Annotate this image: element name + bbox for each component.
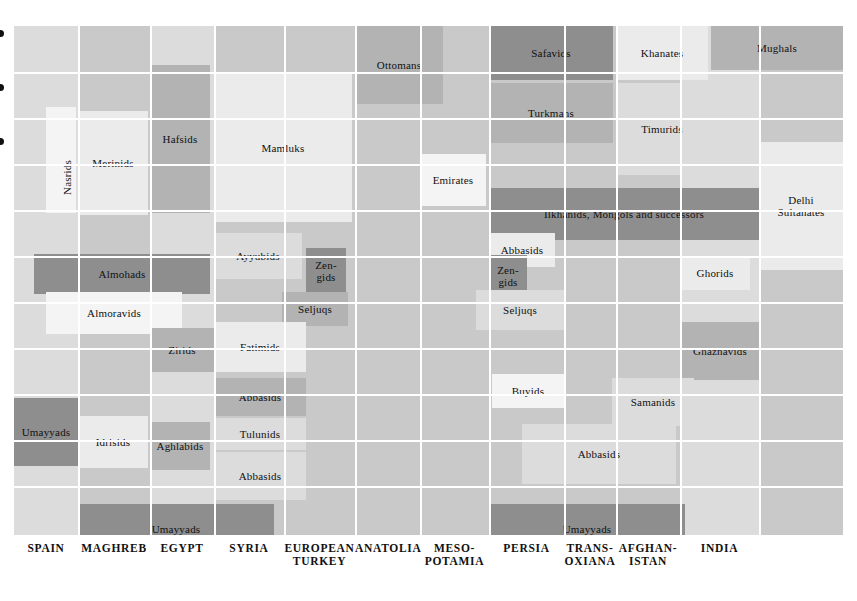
dynasty-label: Umayyads <box>489 523 685 535</box>
dynasty-label: Abbasids <box>214 470 306 482</box>
region-label-anatolia: ANATOLIA <box>355 542 420 555</box>
dynasty-label: Zen- gids <box>489 264 527 288</box>
dynasty-label: Almoravids <box>46 307 182 319</box>
dynasty-label: Umayyads <box>78 523 274 535</box>
chart-plot-area: OttomansSafavidsKhanatesMughalsTurkmansT… <box>14 26 843 535</box>
dynasty-label: Aghlabids <box>150 440 210 452</box>
dynasty-block: Umayyads <box>489 504 685 535</box>
dynasty-label: Seljuqs <box>476 304 564 316</box>
dynasty-block: Ayyubids <box>214 233 302 279</box>
dynasty-label: Ottomans <box>355 59 443 71</box>
dynasty-label: Abbasids <box>214 391 306 403</box>
dynasty-label: Nasrids <box>61 160 73 195</box>
axis-tick-dot <box>0 84 4 91</box>
region-label-mesopotamia: MESO- POTAMIA <box>420 542 489 568</box>
dynasty-block: Delhi Sultanates <box>759 142 843 270</box>
dynasty-label: Turkmans <box>489 107 613 119</box>
axis-tick-dot <box>0 30 4 37</box>
dynasty-label: Merinids <box>78 157 148 169</box>
region-label-persia: PERSIA <box>489 542 564 555</box>
dynasty-block: Abbasids <box>522 424 676 484</box>
dynasty-label: Samanids <box>612 396 694 408</box>
dynasty-label: Zirids <box>150 344 214 356</box>
dynasty-block: Khanates <box>616 26 708 80</box>
dynasty-block: Nasrids <box>46 107 76 213</box>
dynasty-block: Buyids <box>492 374 564 408</box>
dynasty-block: Fatimids <box>214 322 306 372</box>
dynasty-block: Mamluks <box>214 74 352 222</box>
region-label-spain: SPAIN <box>14 542 78 555</box>
dynasty-block: Zirids <box>150 328 214 372</box>
dynasty-label: Zen- gids <box>306 259 346 283</box>
dynasty-label: Fatimids <box>214 341 306 353</box>
region-label-syria: SYRIA <box>214 542 284 555</box>
dynasty-block: Mughals <box>711 26 843 70</box>
region-label-afghanistan: AFGHAN- ISTAN <box>616 542 680 568</box>
dynasty-block: Idrisids <box>78 416 148 468</box>
dynasty-block: Timurids <box>616 83 708 175</box>
dynasty-block: Abbasids <box>214 378 306 416</box>
dynasty-block: Aghlabids <box>150 422 210 470</box>
dynasty-block: Ghaznavids <box>680 322 760 380</box>
dynasty-block: Ghorids <box>680 256 750 290</box>
dynasty-label: Safavids <box>489 47 613 59</box>
dynasty-block: Turkmans <box>489 83 613 143</box>
dynasty-block: Zen- gids <box>306 248 346 294</box>
dynasty-block: Emirates <box>420 154 486 206</box>
dynasty-label: Mamluks <box>214 142 352 154</box>
column-band <box>759 26 843 535</box>
dynasty-label: Ghorids <box>680 267 750 279</box>
dynasty-label: Buyids <box>492 385 564 397</box>
dynasty-label: Timurids <box>616 123 708 135</box>
region-column-labels: SPAINMAGHREBEGYPTSYRIAEUROPEAN TURKEYANA… <box>14 542 843 582</box>
region-label-egypt: EGYPT <box>150 542 214 555</box>
dynasty-block: Umayyads <box>78 504 274 535</box>
dynasty-block: Samanids <box>612 378 694 426</box>
dynasty-block: Hafsids <box>150 65 210 213</box>
axis-tick-dot <box>0 138 4 145</box>
dynasty-label: Khanates <box>616 47 708 59</box>
region-label-india: INDIA <box>680 542 759 555</box>
dynasty-block: Merinids <box>78 111 148 215</box>
dynasty-label: Tulunids <box>214 428 306 440</box>
dynasty-block: Safavids <box>489 26 613 80</box>
region-label-euroturkey: EUROPEAN TURKEY <box>284 542 355 568</box>
dynasty-label: Ghaznavids <box>680 345 760 357</box>
dynasty-block: Umayyads <box>14 398 78 466</box>
dynasty-label: Ilkhanids, Mongols and successors <box>489 208 759 220</box>
dynasty-block: Almohads <box>34 254 210 294</box>
dynasty-label: Hafsids <box>150 133 210 145</box>
dynasty-block: Ottomans <box>355 26 443 104</box>
dynasty-label: Umayyads <box>14 426 78 438</box>
dynasty-block: Seljuqs <box>282 292 348 326</box>
dynasty-block: Seljuqs <box>476 290 564 330</box>
region-label-maghreb: MAGHREB <box>78 542 150 555</box>
dynasty-block: Tulunids <box>214 418 306 450</box>
dynasty-label: Ayyubids <box>214 250 302 262</box>
dynasty-label: Almohads <box>34 268 210 280</box>
dynasty-label: Abbasids <box>522 448 676 460</box>
dynasty-label: Idrisids <box>78 436 148 448</box>
dynasty-label: Mughals <box>711 42 843 54</box>
dynasty-label: Seljuqs <box>282 303 348 315</box>
region-label-transoxiana: TRANS- OXIANA <box>564 542 616 568</box>
dynasty-label: Emirates <box>420 174 486 186</box>
dynasty-block: Abbasids <box>214 452 306 500</box>
dynasty-timeline-chart: OttomansSafavidsKhanatesMughalsTurkmansT… <box>0 0 857 601</box>
dynasty-label: Delhi Sultanates <box>759 194 843 218</box>
